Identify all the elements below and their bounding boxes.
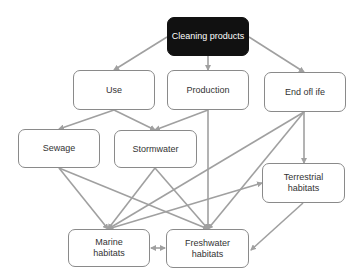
node-use: Use (73, 70, 155, 110)
node-stormwater: Stormwater (114, 130, 197, 168)
edge-use-to-stormwater (114, 110, 155, 130)
node-label: Use (106, 85, 122, 96)
node-terrestrial: Terrestrial habitats (262, 163, 345, 203)
edge-stormwater-to-marine (108, 168, 155, 229)
node-label: End ofl ife (285, 87, 325, 98)
node-production: Production (167, 70, 249, 110)
edge-marine-to-terrestrial (108, 183, 262, 229)
node-label: Freshwater habitats (185, 238, 230, 260)
edge-production-to-stormwater (155, 110, 208, 130)
node-label: Marine habitats (93, 237, 125, 259)
edge-use-to-sewage (59, 110, 114, 129)
node-label: Stormwater (132, 144, 178, 155)
edge-cleaning-to-use (114, 37, 167, 70)
node-label: Sewage (43, 143, 76, 154)
node-label: Cleaning products (172, 31, 245, 42)
node-endoflife: End ofl ife (264, 72, 346, 112)
node-marine: Marine habitats (68, 229, 150, 267)
edge-sewage-to-marine (59, 168, 108, 229)
node-label: Terrestrial habitats (284, 172, 324, 194)
node-cleaning: Cleaning products (167, 17, 249, 56)
diagram-canvas: Cleaning productsUseProductionEnd ofl if… (0, 0, 362, 279)
edge-sewage-to-freshwater (59, 168, 208, 229)
node-label: Production (186, 85, 229, 96)
edge-terrestrial-to-freshwater (251, 203, 303, 250)
edge-stormwater-to-freshwater (155, 168, 208, 229)
edge-cleaning-to-endoflife (249, 37, 304, 72)
node-freshwater: Freshwater habitats (166, 229, 249, 268)
node-sewage: Sewage (18, 129, 100, 168)
